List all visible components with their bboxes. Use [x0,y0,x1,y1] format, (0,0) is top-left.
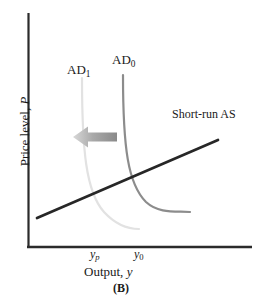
figure-caption: (B) [113,282,129,294]
x-tick-label-y0: y0 [134,248,144,262]
curve-ad1 [82,78,139,229]
x-tick-label-yp: yp [90,248,100,262]
curve-label-ad1: AD1 [67,63,90,79]
curve-ad0 [123,75,190,212]
curve-label-short-run-as: Short-run AS [172,108,236,120]
economics-ad-as-figure: AD1 AD0 Short-run AS Price level, P Outp… [0,0,261,298]
y-axis-label: Price level, P [18,82,31,182]
curve-label-ad0: AD0 [112,53,135,69]
leftward-shift-arrow [73,127,117,148]
plot-canvas [0,0,261,298]
x-axis-label: Output, y [84,265,132,278]
